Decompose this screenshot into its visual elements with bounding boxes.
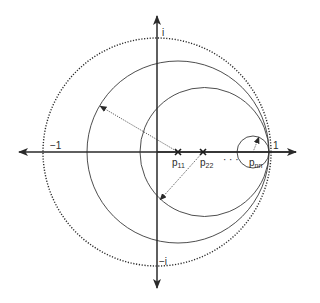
label-p11: p11 [172, 157, 185, 169]
label-real-neg: −1 [50, 140, 62, 151]
label-real-pos: 1 [273, 140, 279, 151]
ellipsis: · · · [223, 154, 239, 165]
radius-arrow-p11 [100, 106, 178, 152]
label-imag-pos: i [162, 27, 164, 38]
label-pnn: pnn [249, 157, 262, 169]
label-p22: p22 [200, 157, 213, 169]
radius-arrow-p22 [160, 152, 203, 200]
label-imag-neg: −i [159, 256, 167, 267]
complex-plane-diagram: −1 1 i −i p11 p22 pnn · · · [0, 0, 320, 303]
radius-arrow-pnn [253, 137, 259, 152]
